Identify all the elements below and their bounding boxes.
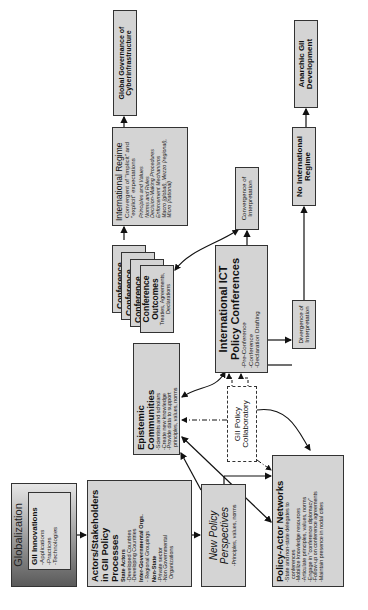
global-governance-box: Global Governance of Cyberinfrastructure: [113, 10, 137, 116]
gii-policy-diagram: Globalization GII Innovations -Applicati…: [0, 0, 368, 610]
list-item: - Regional Groupings: [145, 485, 151, 582]
regime-subtitle-line2: "explicit" expectations: [130, 132, 137, 221]
divergence-line2: Interpretation: [304, 306, 311, 342]
gii-innovations-box: GII Innovations -Applications -Practices…: [28, 492, 71, 570]
list-item: -Technologies: [52, 497, 59, 565]
globalization-title: Globalization: [13, 484, 25, 586]
no-international-regime-box: No International Regime: [292, 127, 316, 206]
global-governance-line2: Cyberinfrastructure: [125, 30, 132, 95]
convergence-box: Convergence of Interpretation: [235, 167, 259, 230]
ict-policy-conferences-box: International ICT Policy Conferences -Pr…: [215, 245, 268, 373]
divergence-box: Divergence of Interpretation: [292, 300, 316, 349]
ict-title-line1: International ICT: [218, 250, 230, 368]
convergence-line2: Interpretation: [247, 180, 254, 216]
collaboratory-title-line2: Collaboratory: [242, 400, 250, 448]
actors-stakeholders-box: Actors/Stakeholders in GII Policy Proces…: [87, 480, 192, 587]
list-item: principles, values, norms: [173, 348, 179, 450]
list-item: Micro (national): [167, 132, 173, 221]
new-policy-title-line2: Perspectives: [220, 507, 231, 564]
conference-outcomes-box: Conference Outcomes Treaties, Agreements…: [140, 265, 174, 333]
list-item: -Declaration Drafting: [254, 250, 261, 368]
anarchic-line2: Development: [306, 39, 314, 89]
policy-actor-networks-box: Policy-Actor Networks -State and non-sta…: [272, 455, 344, 587]
actors-title-line2: in GII Policy Processes: [100, 485, 120, 582]
list-item: Declarations: [166, 284, 172, 314]
list-item: -Principles, values, norms: [232, 505, 238, 567]
global-governance-line1: Global Governance of: [118, 27, 125, 100]
anarchic-gii-development-box: Anarchic GII Development: [294, 20, 318, 108]
new-policy-perspectives-box: New Policy Perspectives -Principles, val…: [201, 484, 246, 587]
international-regime-box: International Regime Convergent of "impl…: [112, 127, 188, 226]
list-item: Organizations: [169, 485, 175, 582]
epistemic-communities-box: Epistemic Communities -Scientists and sc…: [133, 343, 180, 455]
epistemic-title: Epistemic Communities: [136, 348, 156, 450]
list-item: -Maintain presence in nodal cities: [319, 460, 325, 582]
no-regime-line2: Regime: [304, 152, 312, 181]
globalization-box: Globalization GII Innovations -Applicati…: [11, 483, 77, 587]
gii-policy-collaboratory-box: GII Policy Collaboratory: [227, 386, 257, 462]
